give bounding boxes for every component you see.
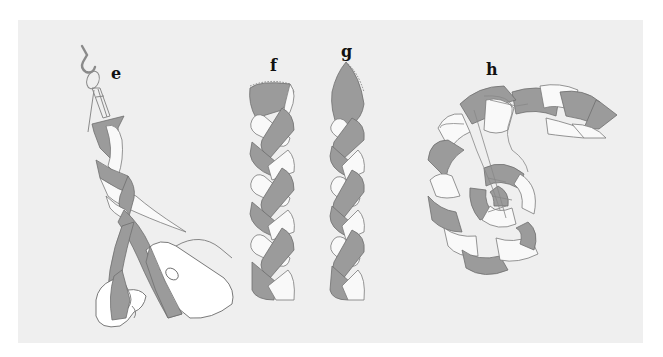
figure-label-g: g — [341, 44, 352, 60]
figure-label-e: e — [111, 66, 121, 82]
braiding-illustration — [0, 0, 663, 357]
figure-h-coiled-braid — [428, 85, 617, 275]
figure-f-braid-flat-end — [250, 81, 295, 300]
figure-g-braid-pointed-end — [330, 62, 364, 300]
hook-icon — [82, 46, 95, 72]
figure-label-f: f — [270, 58, 277, 74]
figure-e-hook-braid — [82, 46, 233, 327]
figure-label-h: h — [486, 62, 498, 78]
